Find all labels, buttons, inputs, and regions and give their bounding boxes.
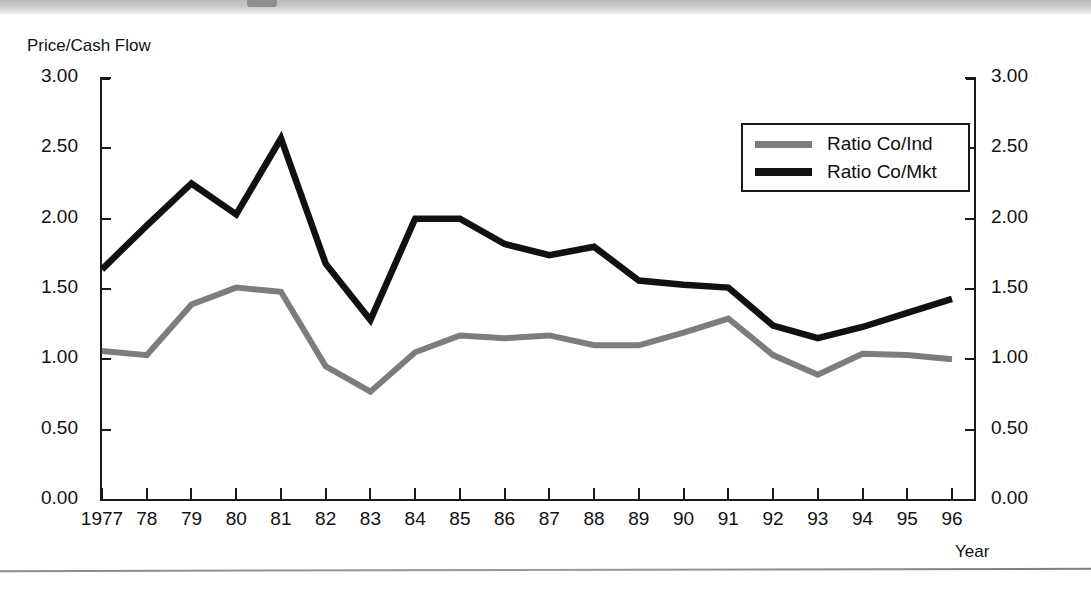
legend-swatch-ratio-co-ind (755, 141, 812, 148)
legend-label-ratio-co-mkt: Ratio Co/Mkt (827, 161, 937, 183)
series-plot-layer (0, 14, 1091, 570)
legend-item-ratio-co-mkt: Ratio Co/Mkt (755, 158, 937, 186)
legend-label-ratio-co-ind: Ratio Co/Ind (827, 133, 933, 155)
legend-item-ratio-co-ind: Ratio Co/Ind (755, 130, 933, 158)
legend-swatch-ratio-co-mkt (755, 168, 812, 176)
chart-page: Price/Cash Flow Year 0.000.501.001.502.0… (0, 0, 1091, 594)
scan-artifact-notch (247, 0, 277, 7)
scan-artifact-top-band (0, 0, 1091, 14)
line-chart: Price/Cash Flow Year 0.000.501.001.502.0… (0, 14, 1091, 570)
chart-legend: Ratio Co/Ind Ratio Co/Mkt (741, 123, 970, 192)
